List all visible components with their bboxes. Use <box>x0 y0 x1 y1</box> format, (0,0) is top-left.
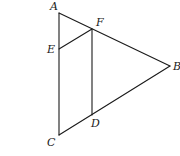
label-C: C <box>47 136 56 149</box>
triangle-diagram: A F E B D C <box>0 0 180 156</box>
label-F: F <box>95 16 104 29</box>
segments <box>59 13 170 135</box>
segment-CB <box>59 66 170 135</box>
point-labels: A F E B D C <box>46 0 180 149</box>
label-D: D <box>90 117 100 130</box>
label-A: A <box>49 0 58 13</box>
segment-EF <box>59 29 92 49</box>
label-B: B <box>172 60 180 73</box>
label-E: E <box>46 43 55 56</box>
